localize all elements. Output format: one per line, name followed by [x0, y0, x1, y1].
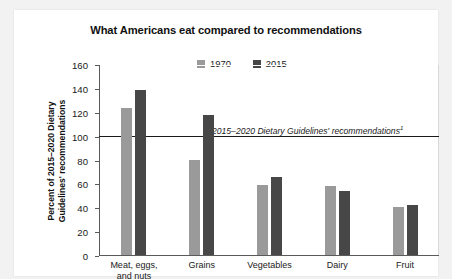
plot-area: 020406080100120140160 2015–2020 Dietary … — [99, 65, 439, 256]
chart-card: What Americans eat compared to recommend… — [14, 10, 438, 276]
bar-group: Vegetables — [236, 65, 304, 255]
x-axis-tick-label: Fruit — [371, 260, 439, 271]
y-axis-tick-label: 80 — [77, 155, 88, 166]
bar-group-bars — [371, 65, 439, 255]
x-axis-tick-label-line: Meat, eggs, — [110, 260, 157, 270]
bar-1970-vegetables — [257, 185, 268, 255]
y-axis-tick-label: 100 — [72, 131, 88, 142]
y-axis-tick-label: 120 — [72, 107, 88, 118]
bar-group-bars — [100, 65, 168, 255]
bar-group-bars — [168, 65, 236, 255]
x-axis-tick-label: Meat, eggs,and nuts — [100, 260, 168, 279]
bar-2015-meat-eggs-and-nuts — [135, 90, 146, 255]
bar-group: Fruit — [371, 65, 439, 255]
bar-2015-grains — [203, 115, 214, 255]
y-axis-tick: 80 — [95, 161, 99, 162]
bar-group: Dairy — [303, 65, 371, 255]
y-axis-title-line2: Guidelines' recommendations — [57, 99, 67, 221]
bar-1970-grains — [189, 160, 200, 256]
chart-title: What Americans eat compared to recommend… — [14, 24, 438, 36]
x-axis-tick-label-line: Fruit — [396, 260, 414, 270]
bar-groups: Meat, eggs,and nutsGrainsVegetablesDairy… — [100, 65, 439, 255]
x-axis-tick-label: Grains — [168, 260, 236, 271]
y-axis-tick: 20 — [95, 232, 99, 233]
y-axis-tick: 0 — [95, 256, 99, 257]
bar-group-bars — [303, 65, 371, 255]
y-axis-tick: 140 — [95, 89, 99, 90]
y-axis-tick: 160 — [95, 65, 99, 66]
y-axis-tick: 60 — [95, 184, 99, 185]
y-axis-title-text: Percent of 2015–2020 Dietary Guidelines'… — [46, 65, 68, 256]
bar-group-bars — [236, 65, 304, 255]
bar-2015-fruit — [407, 205, 418, 255]
x-axis-tick-label-line: Grains — [188, 260, 215, 270]
y-axis-tick: 120 — [95, 113, 99, 114]
y-axis-title: Percent of 2015–2020 Dietary Guidelines'… — [44, 65, 70, 256]
y-axis-tick: 40 — [95, 208, 99, 209]
y-axis-tick-label: 0 — [83, 251, 88, 262]
y-axis-tick-label: 40 — [77, 203, 88, 214]
bar-2015-dairy — [339, 191, 350, 255]
y-axis-tick-label: 160 — [72, 60, 88, 71]
x-axis-tick-label-line: Vegetables — [247, 260, 292, 270]
bar-group: Grains — [168, 65, 236, 255]
bar-1970-fruit — [393, 207, 404, 255]
y-axis-tick-label: 20 — [77, 227, 88, 238]
bar-1970-dairy — [325, 186, 336, 255]
bar-2015-vegetables — [271, 177, 282, 255]
bar-1970-meat-eggs-and-nuts — [121, 108, 132, 255]
y-axis-tick-label: 60 — [77, 179, 88, 190]
x-axis-tick-label: Vegetables — [236, 260, 304, 271]
y-axis-title-line1: Percent of 2015–2020 Dietary — [46, 101, 56, 220]
y-axis-tick-label: 140 — [72, 83, 88, 94]
x-axis-tick-label-line: Dairy — [327, 260, 348, 270]
x-axis-tick-label-line: and nuts — [117, 271, 152, 279]
x-axis-tick-label: Dairy — [303, 260, 371, 271]
x-axis-line — [99, 255, 439, 256]
bar-group: Meat, eggs,and nuts — [100, 65, 168, 255]
